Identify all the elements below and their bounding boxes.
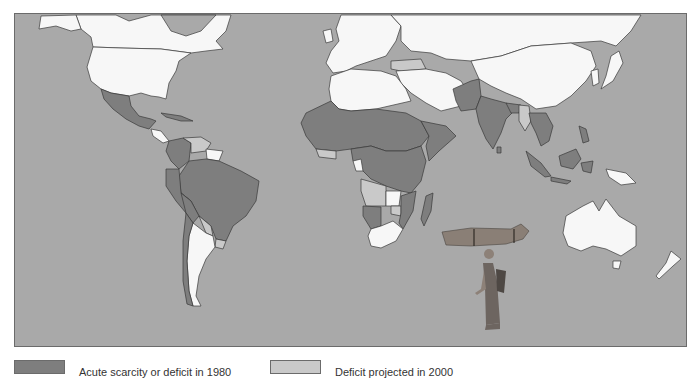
legend-item-light: Deficit projected in 2000 xyxy=(270,360,453,373)
country-uk xyxy=(323,29,333,43)
legend-label-dark: Acute scarcity or deficit in 1980 xyxy=(79,366,231,379)
country-mozambique xyxy=(399,191,416,229)
country-uruguay xyxy=(215,239,226,249)
country-borneo xyxy=(559,149,581,169)
country-europe xyxy=(326,15,401,73)
legend-label-light: Deficit projected in 2000 xyxy=(335,366,453,379)
woman-head xyxy=(484,249,494,259)
country-sulawesi xyxy=(581,161,593,173)
world-map-svg xyxy=(15,14,686,346)
country-alaska xyxy=(39,15,81,31)
country-west-africa-light xyxy=(316,149,336,159)
country-java xyxy=(551,177,571,184)
country-zimbabwe xyxy=(391,206,401,216)
country-australia xyxy=(563,199,636,256)
country-sri-lanka xyxy=(497,147,501,153)
country-sumatra xyxy=(526,151,551,177)
legend: Acute scarcity or deficit in 1980 Defici… xyxy=(0,360,699,373)
country-zambia xyxy=(386,191,401,206)
country-namibia xyxy=(363,206,381,229)
country-japan xyxy=(601,51,623,89)
country-indochina xyxy=(529,113,553,146)
woman-firewood-illustration xyxy=(442,224,529,330)
country-new-guinea xyxy=(606,169,636,185)
woman-arm xyxy=(475,271,486,295)
country-burma xyxy=(519,105,531,131)
country-korea xyxy=(591,69,599,86)
legend-swatch-light xyxy=(270,360,321,374)
country-philippines xyxy=(579,126,589,143)
firewood-bundle xyxy=(442,224,529,246)
country-cuba xyxy=(161,113,193,121)
woman-pot xyxy=(496,269,506,293)
country-central-america xyxy=(151,129,169,143)
country-tasmania xyxy=(613,261,621,269)
country-horn-africa xyxy=(421,121,456,161)
legend-swatch-dark xyxy=(14,360,65,374)
country-gabon xyxy=(353,159,363,171)
legend-item-dark: Acute scarcity or deficit in 1980 xyxy=(14,360,231,373)
country-new-zealand xyxy=(656,251,681,279)
country-argentina xyxy=(187,223,215,306)
country-madagascar xyxy=(421,193,433,226)
world-map xyxy=(14,13,687,347)
